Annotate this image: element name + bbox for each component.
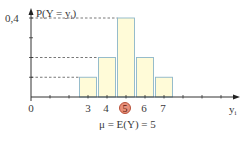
x-axis-arrow-icon	[233, 95, 240, 100]
bar-7	[156, 77, 173, 97]
x-tick-label-5-highlighted: 5	[119, 102, 131, 114]
y-axis-label: P(Y = yi)	[36, 8, 76, 23]
bars	[80, 18, 173, 97]
x-tick-label-3: 3	[85, 103, 91, 114]
x-axis-label-sub: i	[235, 109, 237, 117]
y-axis-arrow-icon	[29, 8, 34, 15]
x-tick-label-4: 4	[103, 103, 109, 114]
y-axis-label-close: )	[72, 7, 76, 19]
x-axis-label: yi	[229, 104, 236, 119]
bar-6	[137, 58, 154, 98]
y-axis-label-text: P(Y = y	[36, 7, 71, 19]
x-tick-label-6: 6	[141, 103, 147, 114]
x-tick-label-0: 0	[28, 103, 34, 114]
x-tick-label-7: 7	[160, 103, 166, 114]
bar-4	[99, 58, 116, 98]
bar-3	[80, 77, 97, 97]
bar-5	[118, 18, 135, 97]
y-tick-label-0-4: 0,4	[5, 13, 19, 24]
mean-annotation: μ = E(Y) = 5	[99, 119, 156, 130]
